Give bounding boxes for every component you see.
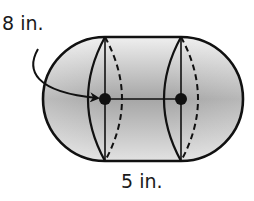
capsule-diagram: 8 in. 5 in.: [0, 0, 254, 201]
length-label: 5 in.: [121, 170, 163, 192]
right-center-dot: [175, 93, 187, 105]
left-center-dot: [99, 93, 111, 105]
capsule-figure: 8 in. 5 in.: [0, 0, 254, 201]
diameter-label: 8 in.: [2, 12, 44, 34]
